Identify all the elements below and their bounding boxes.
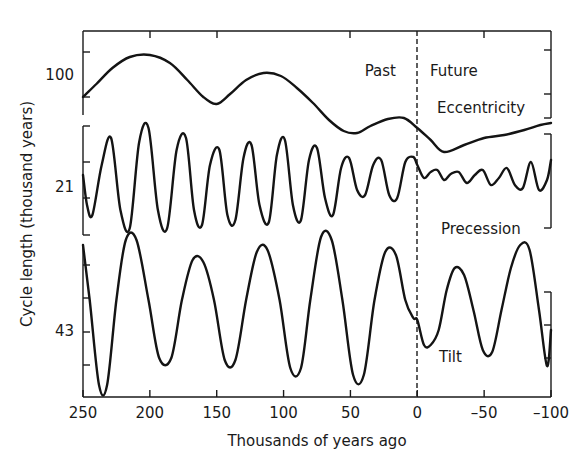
orbital-cycles-chart: 250200150100500–50–100 Past Future Eccen…	[0, 0, 588, 468]
x-axis-title: Thousands of years ago	[226, 432, 406, 450]
top-ticks	[150, 31, 484, 38]
precession-label: Precession	[441, 220, 521, 238]
x-tick-label: 150	[202, 404, 231, 422]
x-axis-ticks	[83, 390, 551, 397]
eccentricity-label: Eccentricity	[437, 99, 525, 117]
eccentricity-right-spine	[544, 31, 551, 118]
x-tick-label: –100	[533, 404, 569, 422]
past-label: Past	[365, 62, 396, 80]
x-axis-tick-labels: 250200150100500–50–100	[69, 404, 569, 422]
y-axis-title: Cycle length (thousand years)	[18, 101, 36, 327]
tilt-tick-label: 43	[55, 322, 74, 340]
x-tick-label: 0	[413, 404, 423, 422]
x-tick-label: –50	[471, 404, 498, 422]
x-tick-label: 250	[69, 404, 98, 422]
tilt-label: Tilt	[438, 348, 462, 366]
x-tick-label: 50	[341, 404, 360, 422]
future-label: Future	[430, 62, 478, 80]
precession-tick-label: 21	[55, 178, 74, 196]
eccentricity-tick-label: 100	[45, 66, 74, 84]
x-tick-label: 100	[269, 404, 298, 422]
x-tick-label: 200	[136, 404, 165, 422]
eccentricity-left-spine	[83, 31, 90, 115]
tilt-curve	[83, 231, 551, 396]
